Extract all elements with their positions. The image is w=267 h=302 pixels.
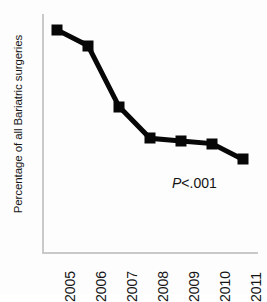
x-tick-label: 2006 (94, 250, 108, 302)
data-point-marker (114, 101, 125, 112)
x-tick-label: 2007 (125, 250, 139, 302)
data-point-marker (207, 138, 218, 149)
p-value-number: <.001 (181, 175, 216, 191)
x-tick-label: 2008 (156, 250, 170, 302)
x-tick-label: 2011 (249, 250, 263, 302)
p-value-annotation: P<.001 (172, 176, 217, 190)
x-tick-label: 2009 (187, 250, 201, 302)
plot-area: 0123456789 2005200620072008200920102011 … (42, 14, 258, 252)
y-axis-title: Percentage of all Bariatric surgeries (12, 0, 24, 249)
p-value-symbol: P (172, 175, 181, 191)
x-tick-label: 2005 (63, 250, 77, 302)
x-tick-label: 2010 (218, 250, 232, 302)
data-point-marker (83, 40, 94, 51)
data-point-marker (238, 154, 249, 165)
data-point-marker (145, 133, 156, 144)
data-point-marker (176, 135, 187, 146)
data-point-marker (52, 24, 63, 35)
